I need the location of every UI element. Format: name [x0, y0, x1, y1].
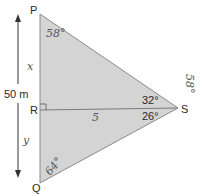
vertex-label-q: Q: [32, 182, 41, 194]
triangle-diagram: 50 m P R Q S 32° 26° 58° x y 64° 5 58°: [0, 0, 202, 196]
angle-label-upper-s: 32°: [142, 94, 159, 106]
angle-label-lower-s: 26°: [142, 110, 159, 122]
handwritten-segment-y: y: [22, 134, 30, 147]
vertex-label-p: P: [30, 4, 37, 16]
vertex-label-r: R: [30, 104, 38, 116]
vertex-label-s: S: [181, 103, 188, 115]
arrowhead-up-icon: [15, 14, 21, 22]
arrowhead-down-icon: [15, 170, 21, 178]
dimension-label: 50 m: [4, 88, 28, 100]
handwritten-angle-p: 58°: [46, 27, 66, 40]
handwritten-note-s: 58°: [183, 74, 196, 94]
handwritten-segment-rs: 5: [92, 111, 99, 124]
handwritten-segment-x: x: [27, 60, 34, 73]
